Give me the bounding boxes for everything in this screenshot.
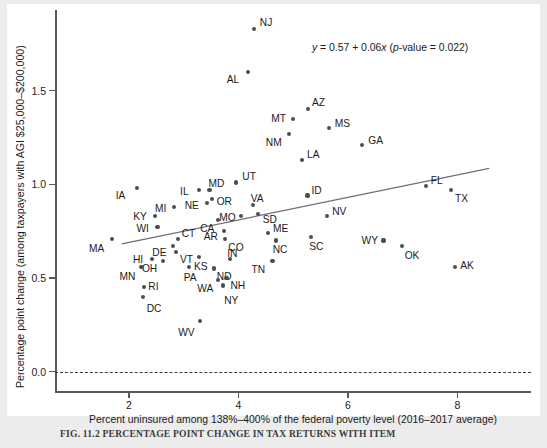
figure-container: 0.00.51.01.5 2468 NJALAZMTMSNMGALAUTFLMD…	[0, 0, 547, 448]
figure-caption: FIG. 11.2 PERCENTAGE POINT CHANGE IN TAX…	[60, 428, 547, 439]
plot-card	[7, 4, 540, 416]
